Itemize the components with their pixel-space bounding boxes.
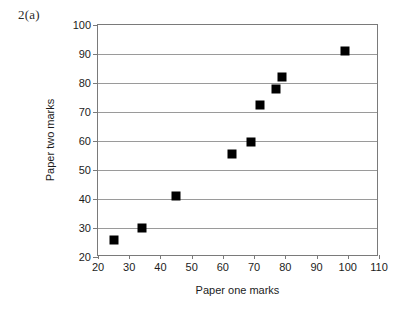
x-tick-label-90: 90 [310, 261, 322, 273]
x-tick-label-100: 100 [339, 261, 357, 273]
gridline-y-40 [98, 199, 377, 200]
question-label: 2(a) [18, 7, 40, 23]
x-tick-label-40: 40 [154, 261, 166, 273]
x-tick-label-60: 60 [217, 261, 229, 273]
plot-area: 2030405060708090100 20304050607080901001… [97, 24, 378, 256]
data-point [228, 150, 237, 159]
x-tick-mark-50 [192, 255, 193, 259]
y-tick-mark-100 [93, 25, 98, 26]
data-point [256, 100, 265, 109]
data-point [109, 235, 118, 244]
x-tick-mark-100 [348, 255, 349, 259]
x-tick-mark-110 [379, 255, 380, 259]
y-tick-mark-50 [93, 170, 98, 171]
y-tick-mark-90 [93, 54, 98, 55]
x-tick-label-30: 30 [123, 261, 135, 273]
y-tick-label-40: 40 [79, 193, 91, 205]
y-tick-label-80: 80 [79, 77, 91, 89]
x-tick-label-20: 20 [92, 261, 104, 273]
gridline-y-70 [98, 112, 377, 113]
scatter-plot-figure: 2(a) 2030405060708090100 203040506070809… [0, 0, 407, 310]
gridline-y-80 [98, 83, 377, 84]
y-tick-label-60: 60 [79, 135, 91, 147]
y-tick-label-30: 30 [79, 222, 91, 234]
gridline-y-90 [98, 54, 377, 55]
y-tick-label-20: 20 [79, 251, 91, 263]
gridline-y-60 [98, 141, 377, 142]
x-tick-mark-40 [160, 255, 161, 259]
x-tick-mark-80 [285, 255, 286, 259]
x-tick-mark-60 [223, 255, 224, 259]
x-tick-label-70: 70 [248, 261, 260, 273]
x-tick-label-110: 110 [370, 261, 388, 273]
x-tick-mark-90 [317, 255, 318, 259]
y-tick-mark-30 [93, 228, 98, 229]
gridline-y-50 [98, 170, 377, 171]
data-point [271, 84, 280, 93]
y-tick-label-90: 90 [79, 48, 91, 60]
x-axis-title: Paper one marks [97, 284, 378, 296]
data-point [340, 47, 349, 56]
x-tick-mark-70 [254, 255, 255, 259]
data-point [246, 138, 255, 147]
x-tick-mark-30 [129, 255, 130, 259]
y-tick-mark-40 [93, 199, 98, 200]
y-tick-mark-80 [93, 83, 98, 84]
data-point [137, 224, 146, 233]
data-point [278, 73, 287, 82]
y-tick-mark-60 [93, 141, 98, 142]
y-tick-label-50: 50 [79, 164, 91, 176]
y-tick-mark-70 [93, 112, 98, 113]
y-tick-label-100: 100 [73, 19, 91, 31]
x-tick-label-50: 50 [186, 261, 198, 273]
y-axis-title: Paper two marks [44, 24, 58, 256]
y-tick-label-70: 70 [79, 106, 91, 118]
x-tick-label-80: 80 [279, 261, 291, 273]
data-point [172, 192, 181, 201]
x-tick-mark-20 [98, 255, 99, 259]
